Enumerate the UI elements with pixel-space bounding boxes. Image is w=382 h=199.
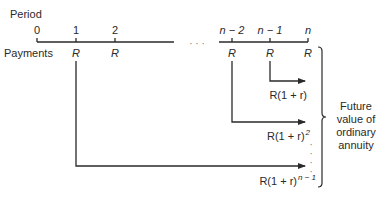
period-tick-label: n − 1 [258,24,283,36]
future-value-label: Future value of ordinary annuity [332,100,380,152]
period-tick-label: 0 [34,24,40,36]
period-tick-label: 1 [73,24,79,36]
payment-r: R [304,47,312,59]
period-tick-label: 2 [112,24,118,36]
timeline-diagram [0,0,382,199]
period-label: Period [10,8,42,20]
period-tick-label: n [305,24,311,36]
flow-arrow-n-minus-1 [270,61,305,81]
vertical-ellipsis: ···· [309,140,313,176]
period-tick-label: n − 2 [220,24,245,36]
flow-value-label: R(1 + r)2 [267,130,310,144]
fv-line: ordinary [332,126,380,139]
axis-ellipsis: · · · [189,38,205,50]
payment-r: R [228,47,236,59]
fv-line: Future [332,100,380,113]
flow-value-label: R(1 + r)n − 1 [259,175,316,189]
time-axis [37,38,308,42]
flow-value-label: R(1 + r) [269,89,307,101]
right-brace [318,47,326,187]
fv-line: value of [332,113,380,126]
payment-r: R [111,47,119,59]
fv-line: annuity [332,139,380,152]
payments-label: Payments [4,47,53,59]
payment-r: R [72,47,80,59]
payment-r: R [266,47,274,59]
